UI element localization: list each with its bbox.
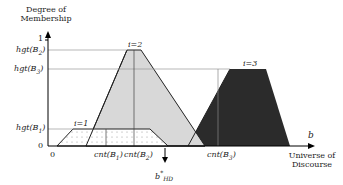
y-axis-title-line1: Degree of [4,5,88,14]
label-cnt-b1: cnt(B1) [94,150,123,162]
y-axis-title: Degree of Membership [4,5,88,23]
label-b-star-hd: b*HD [155,168,173,183]
tick-one: 1 [38,34,43,43]
x-axis-title-line1: Universe of [282,151,342,160]
y-axis-title-line2: Membership [4,14,88,23]
set-b1-shape [57,129,168,146]
x-axis-title: Universe of Discourse [282,151,342,169]
label-cnt-b3: cnt(B3) [207,150,236,162]
label-hgt-b1: hgt(B1) [16,123,45,135]
tick-zero: 0 [38,141,43,150]
x-origin: 0 [50,150,55,159]
set-label-i3: i=3 [243,59,257,68]
set-b3-shape [188,69,290,146]
x-axis-symbol: b [308,131,314,140]
set-label-i2: i=2 [128,40,142,49]
label-hgt-b3: hgt(B3) [14,64,43,76]
x-axis-title-line2: Discourse [282,160,342,169]
label-cnt-b2: cnt(B2) [124,150,153,162]
set-label-i1: i=1 [74,119,88,128]
label-hgt-b2: hgt(B2) [16,45,45,57]
